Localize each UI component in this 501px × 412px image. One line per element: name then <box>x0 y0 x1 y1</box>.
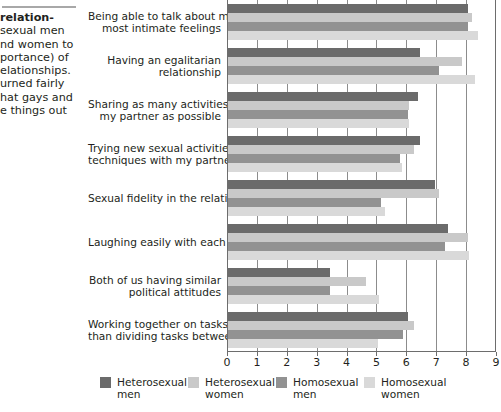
bar <box>227 207 385 216</box>
category-label: Trying new sexual activities ortechnique… <box>88 142 221 167</box>
x-tick-label: 4 <box>343 356 350 369</box>
category-label-line: than dividing tasks between us <box>88 330 221 343</box>
category-label-line: techniques with my partner <box>88 154 221 167</box>
bar <box>227 163 402 172</box>
bar <box>227 13 472 22</box>
bar <box>227 312 408 321</box>
category-label-line: Sexual fidelity in the relationship <box>88 192 221 205</box>
category-label: Both of us having similarpolitical attit… <box>88 274 221 299</box>
legend-swatch-icon <box>100 377 111 388</box>
bar <box>227 224 448 233</box>
bar <box>227 119 409 128</box>
bar <box>227 92 418 101</box>
category-label-line: Sharing as many activities with <box>88 98 221 111</box>
bar <box>227 75 475 84</box>
category-label: Sharing as many activities withmy partne… <box>88 98 221 123</box>
bar <box>227 136 420 145</box>
bar-group <box>227 308 496 352</box>
x-tick-label: 6 <box>403 356 410 369</box>
bar <box>227 321 414 330</box>
legend-item[interactable]: Heterosexualmen <box>100 376 187 401</box>
bar <box>227 198 381 207</box>
bar <box>227 66 439 75</box>
legend-item[interactable]: Homosexualmen <box>276 376 359 401</box>
x-tick-label: 5 <box>373 356 380 369</box>
legend-label-line: women <box>381 388 447 400</box>
bar <box>227 242 445 251</box>
bar <box>227 110 408 119</box>
chart-page: relation-sexual mennd women toportance) … <box>0 0 501 412</box>
bar-group <box>227 220 496 264</box>
bar <box>227 251 469 260</box>
category-label-line: Laughing easily with each other <box>88 236 221 249</box>
category-label-line: my partner as possible <box>88 110 221 123</box>
legend-label: Homosexualwomen <box>381 376 447 401</box>
x-tick-label: 9 <box>493 356 500 369</box>
category-label-line: Having an egalitarian <box>88 54 221 67</box>
bar <box>227 4 468 13</box>
category-label-line: Working together on tasks rather <box>88 318 221 331</box>
x-tick-label: 0 <box>224 356 231 369</box>
bar <box>227 57 462 66</box>
category-axis-labels: Being able to talk about mymost intimate… <box>88 0 221 352</box>
bar <box>227 180 435 189</box>
bar-chart: Being able to talk about mymost intimate… <box>0 0 501 412</box>
bar <box>227 286 330 295</box>
bar-group <box>227 88 496 132</box>
category-label: Laughing easily with each other <box>88 236 221 249</box>
x-tick-label: 2 <box>283 356 290 369</box>
bar <box>227 268 330 277</box>
bar <box>227 295 379 304</box>
legend-swatch-icon <box>276 377 287 388</box>
bar <box>227 22 468 31</box>
legend-label-line: men <box>117 388 187 400</box>
category-label-line: political attitudes <box>88 286 221 299</box>
legend-label-line: Homosexual <box>293 376 359 388</box>
category-label: Working together on tasks ratherthan div… <box>88 318 221 343</box>
legend-item[interactable]: Heterosexualwomen <box>188 376 275 401</box>
legend-item[interactable]: Homosexualwomen <box>364 376 447 401</box>
category-label: Having an egalitarianrelationship <box>88 54 221 79</box>
bar <box>227 189 439 198</box>
category-label-line: relationship <box>88 66 221 79</box>
category-label-line: Both of us having similar <box>88 274 221 287</box>
legend-label-line: women <box>205 388 275 400</box>
legend-swatch-icon <box>188 377 199 388</box>
chart-legend: HeterosexualmenHeterosexualwomenHomosexu… <box>100 376 500 408</box>
plot-area <box>227 0 496 352</box>
x-tick-label: 3 <box>313 356 320 369</box>
bar-group <box>227 132 496 176</box>
bar-group <box>227 44 496 88</box>
x-tick-label: 7 <box>433 356 440 369</box>
bar-group <box>227 264 496 308</box>
category-label: Sexual fidelity in the relationship <box>88 192 221 205</box>
bar-group <box>227 176 496 220</box>
legend-label: Heterosexualmen <box>117 376 187 401</box>
bar <box>227 277 366 286</box>
legend-label: Heterosexualwomen <box>205 376 275 401</box>
legend-swatch-icon <box>364 377 375 388</box>
legend-label-line: Heterosexual <box>117 376 187 388</box>
category-label: Being able to talk about mymost intimate… <box>88 10 221 35</box>
category-label-line: most intimate feelings <box>88 22 221 35</box>
legend-label-line: Homosexual <box>381 376 447 388</box>
category-label-line: Trying new sexual activities or <box>88 142 221 155</box>
x-tick-label: 1 <box>253 356 260 369</box>
bar <box>227 31 478 40</box>
bar <box>227 101 409 110</box>
bar <box>227 48 420 57</box>
bar <box>227 145 414 154</box>
bar <box>227 330 403 339</box>
bar <box>227 233 468 242</box>
legend-label: Homosexualmen <box>293 376 359 401</box>
bar-group <box>227 0 496 44</box>
legend-label-line: Heterosexual <box>205 376 275 388</box>
x-tick-label: 8 <box>463 356 470 369</box>
category-label-line: Being able to talk about my <box>88 10 221 23</box>
bar <box>227 339 378 348</box>
bar <box>227 154 400 163</box>
legend-label-line: men <box>293 388 359 400</box>
